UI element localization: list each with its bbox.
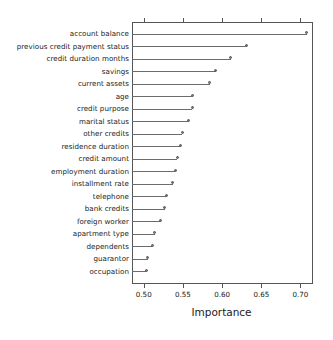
row-label: age: [116, 91, 129, 103]
row-connector-line: [132, 134, 182, 135]
dotchart-row: residence duration: [0, 141, 333, 153]
dotchart-row: foreign worker: [0, 216, 333, 228]
row-data-point: [191, 94, 194, 97]
x-tick-mark: [183, 284, 184, 288]
row-connector-line: [132, 109, 192, 110]
row-connector-line: [132, 46, 246, 47]
row-data-point: [171, 181, 174, 184]
x-tick-mark-top: [261, 18, 262, 22]
row-connector-line: [132, 221, 160, 222]
dotchart-row: telephone: [0, 191, 333, 203]
row-label: credit amount: [78, 153, 129, 165]
row-data-point: [179, 144, 182, 147]
x-tick-mark-top: [144, 18, 145, 22]
x-tick-label: 0.70: [293, 290, 309, 299]
row-data-point: [165, 194, 168, 197]
row-connector-line: [132, 184, 173, 185]
x-tick-label: 0.65: [253, 290, 269, 299]
row-connector-line: [132, 271, 146, 272]
dotchart-row: savings: [0, 66, 333, 78]
dotchart-row: installment rate: [0, 178, 333, 190]
row-data-point: [174, 169, 177, 172]
row-label: credit purpose: [77, 103, 129, 115]
row-data-point: [146, 256, 149, 259]
row-connector-line: [132, 171, 175, 172]
dotchart-row: current assets: [0, 78, 333, 90]
row-label: employment duration: [51, 166, 129, 178]
row-label: credit duration months: [47, 53, 129, 65]
dotchart-row: account balance: [0, 28, 333, 40]
row-connector-line: [132, 71, 216, 72]
row-label: guarantor: [93, 253, 129, 265]
row-connector-line: [132, 96, 192, 97]
row-label: current assets: [78, 78, 129, 90]
x-tick-mark-top: [222, 18, 223, 22]
x-tick-mark: [144, 284, 145, 288]
dotchart-row: credit purpose: [0, 103, 333, 115]
row-label: foreign worker: [77, 216, 129, 228]
x-axis-title: Importance: [0, 306, 333, 318]
row-data-point: [145, 269, 148, 272]
x-tick-mark-top: [300, 18, 301, 22]
dotchart-row: age: [0, 91, 333, 103]
dotchart-row: apartment type: [0, 228, 333, 240]
row-data-point: [187, 119, 190, 122]
row-label: dependents: [86, 241, 129, 253]
x-tick-mark: [222, 284, 223, 288]
row-label: residence duration: [62, 141, 129, 153]
row-data-point: [163, 206, 166, 209]
row-connector-line: [132, 209, 165, 210]
row-label: previous credit payment status: [17, 41, 129, 53]
row-connector-line: [132, 146, 181, 147]
dotchart-row: guarantor: [0, 253, 333, 265]
row-label: savings: [102, 66, 129, 78]
row-data-point: [151, 244, 154, 247]
x-axis-title-label: Importance: [191, 306, 251, 318]
x-tick-label: 0.60: [214, 290, 230, 299]
row-connector-line: [132, 84, 210, 85]
row-connector-line: [132, 234, 155, 235]
row-data-point: [229, 56, 232, 59]
row-label: apartment type: [73, 228, 129, 240]
x-tick-mark-top: [183, 18, 184, 22]
x-tick-mark: [261, 284, 262, 288]
row-label: other credits: [83, 128, 129, 140]
row-data-point: [208, 81, 211, 84]
row-data-point: [191, 106, 194, 109]
row-connector-line: [132, 121, 188, 122]
dotchart-row: occupation: [0, 266, 333, 278]
dotchart-row: credit amount: [0, 153, 333, 165]
row-label: account balance: [70, 28, 129, 40]
dotchart-row: credit duration months: [0, 53, 333, 65]
x-tick-label: 0.50: [136, 290, 152, 299]
row-connector-line: [132, 34, 307, 35]
row-data-point: [181, 131, 184, 134]
dotchart-row: other credits: [0, 128, 333, 140]
row-data-point: [153, 231, 156, 234]
dotchart-row: bank credits: [0, 203, 333, 215]
dotchart-row: employment duration: [0, 166, 333, 178]
row-connector-line: [132, 196, 166, 197]
row-connector-line: [132, 59, 231, 60]
row-label: installment rate: [72, 178, 129, 190]
x-tick-label: 0.55: [175, 290, 191, 299]
variable-importance-dotchart: account balanceprevious credit payment s…: [0, 0, 333, 340]
row-label: telephone: [93, 191, 129, 203]
row-connector-line: [132, 259, 148, 260]
x-tick-mark: [300, 284, 301, 288]
row-connector-line: [132, 246, 152, 247]
row-label: occupation: [89, 266, 129, 278]
row-data-point: [214, 69, 217, 72]
row-data-point: [159, 219, 162, 222]
dotchart-row: dependents: [0, 241, 333, 253]
row-label: marital status: [79, 116, 129, 128]
row-data-point: [245, 44, 248, 47]
dotchart-row: marital status: [0, 116, 333, 128]
row-data-point: [176, 156, 179, 159]
dotchart-row: previous credit payment status: [0, 41, 333, 53]
row-connector-line: [132, 159, 177, 160]
row-label: bank credits: [85, 203, 129, 215]
